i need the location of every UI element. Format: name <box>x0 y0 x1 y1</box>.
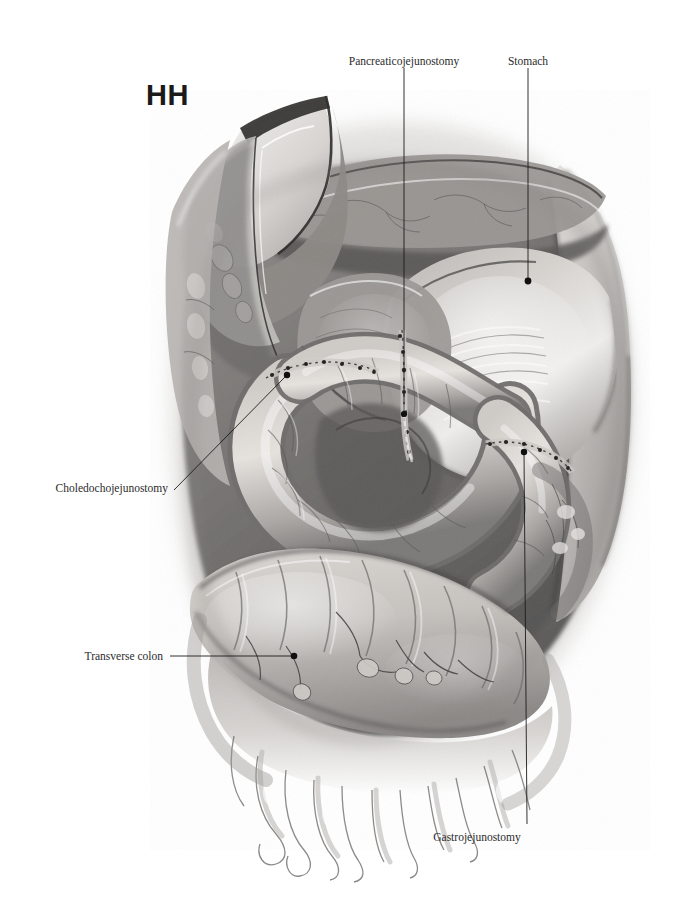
figure-id-label: HH <box>146 81 189 110</box>
callout-label-stomach: Stomach <box>508 55 548 68</box>
callout-label-pancreaticojejunostomy: Pancreaticojejunostomy <box>349 55 460 68</box>
figure-root: HH Pancreaticojejunostomy Stomach Choled… <box>0 0 688 916</box>
callout-label-transverse-colon: Transverse colon <box>85 650 163 663</box>
callout-label-gastrojejunostomy: Gastrojejunostomy <box>433 831 521 844</box>
anatomical-illustration <box>0 0 688 916</box>
callout-label-choledochojejunostomy: Choledochojejunostomy <box>56 482 168 495</box>
